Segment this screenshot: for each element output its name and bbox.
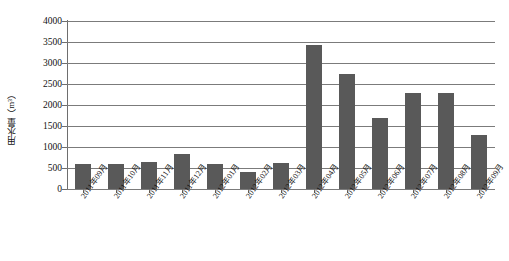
y-axis-tick-label: 0 [24,184,62,194]
bar[interactable] [240,172,256,189]
y-axis-title: 用水量（m³） [2,62,20,172]
y-axis-tick-label: 500 [24,163,62,173]
bar[interactable] [174,154,190,189]
water-usage-bar-chart: 用水量（m³） 40003500300025002000150010005000… [0,0,509,261]
y-axis-tick-label: 2000 [24,100,62,110]
plot-area [67,21,495,189]
y-axis-title-label: 用水量（m³） [7,90,16,145]
gridline [67,189,495,190]
y-axis-tick-labels: 40003500300025002000150010005000 [24,14,62,196]
bar[interactable] [372,118,388,189]
y-axis-tick-label: 3000 [24,58,62,68]
y-axis-tick-mark [62,21,67,22]
y-axis-tick-mark [62,105,67,106]
bar[interactable] [141,162,157,189]
y-axis-tick-mark [62,189,67,190]
bar[interactable] [75,164,91,189]
bar[interactable] [273,163,289,189]
y-axis-tick-label: 4000 [24,16,62,26]
y-axis-tick-mark [62,168,67,169]
y-axis-tick-mark [62,84,67,85]
bar[interactable] [207,164,223,189]
y-axis-tick-mark [62,63,67,64]
y-axis-tick-label: 1500 [24,121,62,131]
y-axis-tick-label: 3500 [24,37,62,47]
y-axis-tick-label: 1000 [24,142,62,152]
bar[interactable] [438,93,454,189]
bar[interactable] [405,93,421,189]
y-axis-tick-mark [62,126,67,127]
bar[interactable] [471,135,487,189]
bar[interactable] [306,45,322,189]
y-axis-tick-mark [62,42,67,43]
y-axis-tick-label: 2500 [24,79,62,89]
bar[interactable] [108,164,124,189]
y-axis-tick-mark [62,147,67,148]
bars-layer [67,21,495,189]
bar[interactable] [339,74,355,190]
